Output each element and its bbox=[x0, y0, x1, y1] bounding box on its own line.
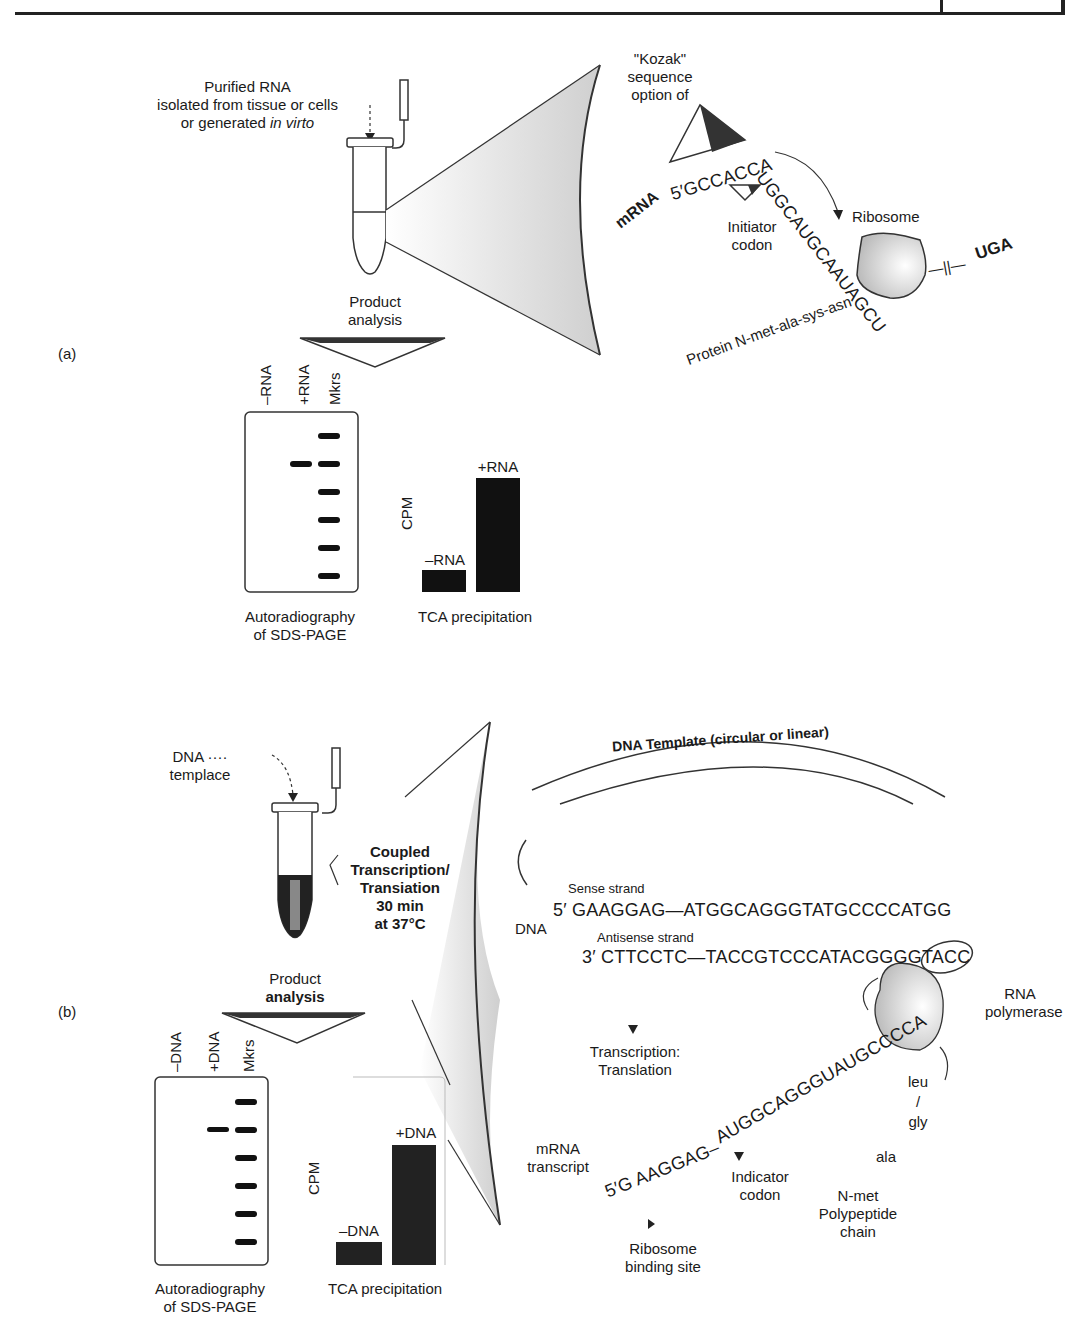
tca-b-bar-2-label: +DNA bbox=[384, 1124, 448, 1142]
incubation-label: Coupled Transcription/ Transiation 30 mi… bbox=[340, 843, 460, 933]
tca-b-caption: TCA precipitation bbox=[310, 1280, 460, 1298]
tca-a-ylabel: CPM bbox=[398, 497, 415, 530]
product-analysis-b: Product analysis bbox=[245, 970, 345, 1006]
rna-polymerase-label: RNA polymerase bbox=[985, 985, 1055, 1021]
gel-b-lane-2: +DNA bbox=[205, 1032, 222, 1072]
tca-a-bar-1-label: –RNA bbox=[415, 551, 475, 569]
tca-b-bar-1-label: –DNA bbox=[327, 1222, 391, 1240]
polypeptide-chain-label: N-met Polypeptide chain bbox=[808, 1187, 908, 1241]
antisense-seq: 3′ CTTCCTC—TACCGTCCCATACGGGGTACC bbox=[582, 947, 970, 968]
panel-a-label: (a) bbox=[58, 345, 76, 363]
transcription-translation-label: Transcription: Translation bbox=[580, 1043, 690, 1079]
tca-a-bar-2-label: +RNA bbox=[468, 458, 528, 476]
gel-a-lane-1: –RNA bbox=[257, 365, 274, 405]
gel-b-caption: Autoradiography of SDS-PAGE bbox=[135, 1280, 285, 1316]
sense-seq: 5′ GAAGGAG—ATGGCAGGGTATGCCCCATGG bbox=[553, 900, 951, 921]
peptide-gly: gly bbox=[898, 1113, 938, 1131]
indicator-codon-label: Indicator codon bbox=[720, 1168, 800, 1204]
tca-b-ylabel: CPM bbox=[305, 1162, 322, 1195]
rna-input-label: Purified RNA isolated from tissue or cel… bbox=[120, 78, 375, 132]
ribosome-binding-site-label: Ribosome binding site bbox=[608, 1240, 718, 1276]
gel-a-lane-3: Mkrs bbox=[326, 373, 343, 406]
gel-a-caption: Autoradiography of SDS-PAGE bbox=[225, 608, 375, 644]
product-analysis-a: Product analysis bbox=[325, 293, 425, 329]
initiator-codon-label: Initiator codon bbox=[712, 218, 792, 254]
tube-b bbox=[272, 748, 340, 938]
peptide-bond: / bbox=[898, 1093, 938, 1111]
dna-input-label: DNA ···· templace bbox=[160, 748, 240, 784]
gel-b-lane-3: Mkrs bbox=[240, 1040, 257, 1073]
gel-a-lane-2: +RNA bbox=[295, 365, 312, 405]
sense-strand-label: Sense strand bbox=[568, 880, 645, 898]
antisense-strand-label: Antisense strand bbox=[597, 929, 694, 947]
peptide-leu: leu bbox=[898, 1073, 938, 1091]
peptide-ala: ala bbox=[866, 1148, 906, 1166]
dna-label: DNA bbox=[515, 920, 547, 938]
gel-b-lane-1: –DNA bbox=[167, 1032, 184, 1072]
panel-b-label: (b) bbox=[58, 1003, 76, 1021]
kozak-label: "Kozak" sequence option of bbox=[605, 50, 715, 104]
mrna-transcript-label: mRNA transcript bbox=[518, 1140, 598, 1176]
tca-a-caption: TCA precipitation bbox=[400, 608, 550, 626]
ribosome-label-a: Ribosome bbox=[852, 208, 920, 226]
